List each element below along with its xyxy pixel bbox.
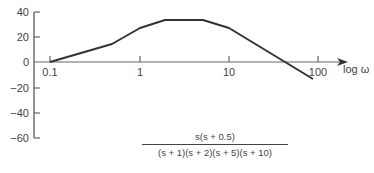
x-axis-label: log ω (343, 63, 370, 75)
transfer-function: s(s + 0.5) (s + 1)(s + 2)(s + 5)(s + 10) (140, 131, 290, 158)
y-tick-minus-60: −60 (10, 132, 29, 144)
x-tick-10: 10 (223, 66, 235, 78)
y-tick-40: 40 (17, 6, 29, 18)
transfer-function-denominator: (s + 1)(s + 2)(s + 5)(s + 10) (140, 145, 290, 158)
y-tick-0: 0 (23, 56, 29, 68)
magnitude-curve (50, 20, 313, 79)
x-tick-0-1: 0.1 (42, 66, 57, 78)
y-tick-minus-40: −40 (10, 107, 29, 119)
y-tick-20: 20 (17, 31, 29, 43)
x-tick-1: 1 (137, 66, 143, 78)
transfer-function-numerator: s(s + 0.5) (140, 131, 290, 144)
y-ticks (34, 12, 40, 138)
x-tick-100: 100 (309, 66, 327, 78)
y-tick-minus-20: −20 (10, 82, 29, 94)
